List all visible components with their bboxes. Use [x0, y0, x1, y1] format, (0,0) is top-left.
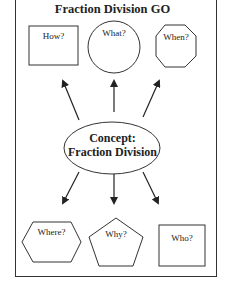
arrow-to-where — [63, 172, 79, 203]
node-how-label: How? — [29, 31, 78, 41]
pentagon-why-shape — [89, 218, 143, 266]
center-concept-label: Concept: Fraction Division — [64, 131, 161, 159]
square-who-shape — [159, 225, 205, 266]
arrow-to-who — [143, 172, 158, 203]
node-when-label: When? — [156, 32, 196, 42]
arrow-to-when — [143, 81, 159, 117]
center-line1: Concept: — [64, 131, 161, 145]
node-why-label: Why? — [89, 229, 143, 239]
center-line2: Fraction Division — [64, 145, 161, 159]
node-what-label: What? — [88, 28, 140, 38]
arrow-to-how — [63, 81, 79, 120]
node-who-label: Who? — [159, 233, 205, 243]
node-where-label: Where? — [24, 227, 79, 237]
